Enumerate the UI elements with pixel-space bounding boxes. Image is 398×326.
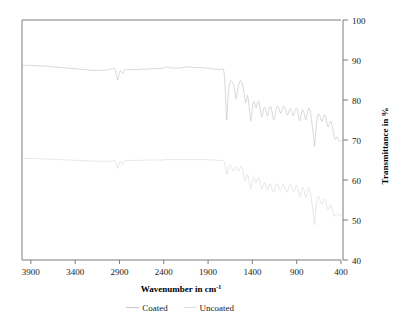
x-tick-label: 2400: [155, 267, 174, 277]
x-tick-label: 400: [334, 267, 348, 277]
x-axis-title-superscript: -1: [216, 284, 221, 290]
chart-background: [0, 0, 398, 326]
x-axis-title: Wavenumber in cm-1: [141, 284, 221, 294]
y-tick-label: 70: [352, 136, 362, 146]
y-tick-label: 100: [352, 16, 366, 26]
x-tick-label: 1900: [199, 267, 218, 277]
x-tick-label: 900: [290, 267, 304, 277]
x-tick-label: 3400: [66, 267, 85, 277]
y-axis-title: Transmittance in %: [380, 108, 390, 185]
legend-label: Coated: [142, 303, 168, 313]
x-tick-label: 3900: [22, 267, 41, 277]
legend-label: Uncoated: [199, 303, 234, 313]
y-tick-label: 80: [352, 96, 362, 106]
chart-canvas: 390034002900240019001400900400 100908070…: [0, 0, 398, 326]
ftir-spectrum-chart: 390034002900240019001400900400 100908070…: [0, 0, 398, 326]
y-tick-label: 40: [352, 256, 362, 266]
y-tick-label: 50: [352, 216, 362, 226]
x-axis-title-main: Wavenumber in cm: [141, 284, 217, 294]
x-tick-label: 2900: [110, 267, 129, 277]
x-tick-label: 1400: [243, 267, 262, 277]
y-tick-label: 60: [352, 176, 362, 186]
y-tick-label: 90: [352, 56, 362, 66]
